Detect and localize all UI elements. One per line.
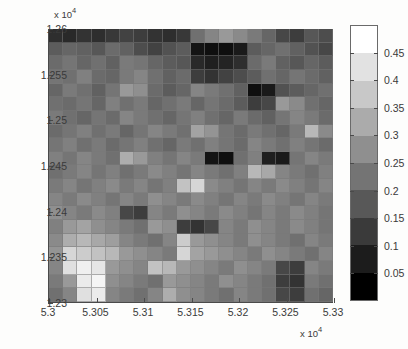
heatmap-cell — [234, 56, 248, 70]
heatmap-cell — [248, 179, 262, 193]
heatmap-cell — [290, 125, 304, 139]
heatmap-cell — [205, 275, 219, 289]
heatmap-cell — [262, 261, 276, 275]
heatmap-cell — [148, 288, 162, 302]
heatmap-cell — [219, 138, 233, 152]
heatmap-cell — [177, 152, 191, 166]
heatmap-cell — [205, 165, 219, 179]
heatmap-cell — [177, 193, 191, 207]
heatmap-cell — [177, 70, 191, 84]
x-axis-tick — [287, 298, 288, 303]
heatmap-cell — [63, 179, 77, 193]
heatmap-cell — [234, 29, 248, 43]
heatmap-cell — [92, 179, 106, 193]
y-axis-tick-label: 1.245 — [41, 160, 67, 172]
heatmap-cell — [120, 165, 134, 179]
colorbar-tick — [374, 273, 378, 274]
heatmap-cell — [191, 165, 205, 179]
heatmap-cell — [305, 43, 319, 57]
heatmap-cell — [290, 56, 304, 70]
heatmap-cell — [77, 288, 91, 302]
heatmap-cell — [290, 261, 304, 275]
heatmap-cell — [63, 220, 77, 234]
heatmap-cell — [49, 84, 63, 98]
heatmap-cell — [234, 138, 248, 152]
heatmap-cell — [290, 84, 304, 98]
heatmap-cell — [77, 138, 91, 152]
heatmap-cell — [106, 165, 120, 179]
x-axis-tick — [334, 298, 335, 303]
colorbar-band — [351, 245, 377, 272]
heatmap-cell — [120, 193, 134, 207]
heatmap-cell — [106, 43, 120, 57]
heatmap-cell — [234, 70, 248, 84]
heatmap-cell — [92, 29, 106, 43]
heatmap-cell — [248, 275, 262, 289]
heatmap-cell — [134, 111, 148, 125]
heatmap-cell — [290, 29, 304, 43]
colorbar-band — [351, 53, 377, 80]
heatmap-cell — [305, 247, 319, 261]
heatmap-cell — [106, 206, 120, 220]
heatmap-cell — [219, 165, 233, 179]
plot-area — [48, 29, 333, 303]
heatmap-cell — [191, 275, 205, 289]
heatmap-cell — [148, 234, 162, 248]
heatmap-cell — [77, 125, 91, 139]
x-axis-tick-label: 5.325 — [272, 306, 298, 318]
heatmap-cell — [248, 97, 262, 111]
heatmap-cell — [92, 288, 106, 302]
heatmap-cell — [92, 261, 106, 275]
heatmap-cell — [163, 179, 177, 193]
heatmap-cell — [290, 247, 304, 261]
heatmap-cell — [205, 152, 219, 166]
heatmap-cell — [134, 220, 148, 234]
heatmap-cell — [276, 29, 290, 43]
heatmap-cell — [248, 247, 262, 261]
heatmap-cell — [276, 179, 290, 193]
heatmap-cell — [219, 206, 233, 220]
heatmap-cell — [234, 111, 248, 125]
heatmap-cell — [92, 206, 106, 220]
heatmap-cell — [319, 152, 333, 166]
heatmap-cell — [92, 234, 106, 248]
heatmap-cell — [262, 125, 276, 139]
heatmap-cell — [219, 56, 233, 70]
heatmap-cell — [262, 43, 276, 57]
heatmap-cell — [148, 261, 162, 275]
heatmap-cell — [49, 193, 63, 207]
heatmap-cell — [177, 43, 191, 57]
heatmap-cell — [120, 111, 134, 125]
heatmap-cell — [120, 29, 134, 43]
heatmap-cell — [319, 220, 333, 234]
heatmap-cell — [163, 288, 177, 302]
heatmap-cell — [248, 70, 262, 84]
heatmap-cell — [177, 179, 191, 193]
heatmap-cell — [262, 29, 276, 43]
x-axis-exponent-power: 4 — [318, 325, 322, 334]
colorbar-band — [351, 163, 377, 190]
x-axis-tick — [144, 298, 145, 303]
heatmap-cell — [163, 56, 177, 70]
y-axis-tick-label: 1.24 — [47, 206, 67, 218]
x-axis-tick — [97, 298, 98, 303]
heatmap-cell — [262, 138, 276, 152]
heatmap-cell — [305, 206, 319, 220]
y-axis-tick-label: 1.23 — [47, 297, 67, 309]
y-axis-exponent-power: 4 — [72, 6, 76, 15]
heatmap-cell — [163, 43, 177, 57]
heatmap-cell — [163, 125, 177, 139]
heatmap-cell — [276, 125, 290, 139]
heatmap-cell — [276, 288, 290, 302]
heatmap-cell — [177, 97, 191, 111]
heatmap-cell — [191, 193, 205, 207]
heatmap-cell — [177, 29, 191, 43]
heatmap-cell — [106, 220, 120, 234]
heatmap-cell — [106, 125, 120, 139]
y-axis-tick-label: 1.235 — [41, 251, 67, 263]
heatmap-cell — [191, 234, 205, 248]
heatmap-cell — [177, 288, 191, 302]
heatmap-cell — [92, 97, 106, 111]
heatmap-cell — [163, 152, 177, 166]
heatmap-cell — [163, 165, 177, 179]
